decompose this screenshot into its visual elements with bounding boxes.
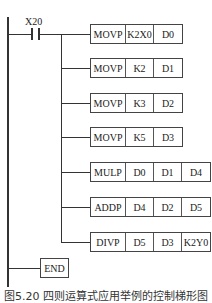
- branch-bus: [61, 34, 62, 243]
- operand: K2X0: [126, 25, 154, 43]
- opcode: MOVP: [91, 128, 126, 146]
- operand: D5: [182, 198, 210, 216]
- operand: K2: [126, 59, 154, 77]
- opcode: DIVP: [91, 233, 126, 251]
- operand: D5: [126, 233, 154, 251]
- operand: D1: [154, 59, 182, 77]
- branch-wire-4: [61, 172, 90, 173]
- operand: D2: [154, 94, 182, 112]
- opcode: ADDP: [91, 198, 126, 216]
- operand: D3: [154, 128, 182, 146]
- branch-wire-5: [61, 207, 90, 208]
- end-rung-wire: [8, 268, 40, 269]
- operand: D2: [154, 198, 182, 216]
- instruction-box-mulp: MULP D0 D1 D4: [90, 162, 211, 182]
- operand: D4: [182, 163, 210, 181]
- opcode: MOVP: [91, 59, 126, 77]
- instruction-box-movp-d0: MOVP K2X0 D0: [90, 24, 183, 44]
- branch-wire-6: [61, 242, 90, 243]
- contact-label: X20: [25, 16, 42, 27]
- operand: D4: [126, 198, 154, 216]
- operand: D1: [154, 163, 182, 181]
- instruction-box-movp-d1: MOVP K2 D1: [90, 58, 183, 78]
- instruction-box-movp-d3: MOVP K5 D3: [90, 127, 183, 147]
- operand: K3: [126, 94, 154, 112]
- branch-wire-3: [61, 137, 90, 138]
- figure-caption: 图5.20 四则运算式应用举例的控制梯形图: [4, 287, 208, 303]
- branch-wire-2: [61, 103, 90, 104]
- opcode: MULP: [91, 163, 126, 181]
- operand: K5: [126, 128, 154, 146]
- instruction-box-addp: ADDP D4 D2 D5: [90, 197, 211, 217]
- left-power-rail: [7, 17, 9, 287]
- rung-wire: [8, 34, 31, 35]
- contact-no-left-bar: [31, 28, 33, 40]
- branch-wire-1: [61, 68, 90, 69]
- branch-wire-0: [61, 34, 90, 35]
- operand: K2Y0: [182, 233, 210, 251]
- operand: D0: [154, 25, 182, 43]
- end-instruction: END: [40, 258, 69, 278]
- opcode: MOVP: [91, 25, 126, 43]
- operand: D0: [126, 163, 154, 181]
- operand: D3: [154, 233, 182, 251]
- instruction-box-movp-d2: MOVP K3 D2: [90, 93, 183, 113]
- rung-wire: [39, 34, 61, 35]
- opcode: MOVP: [91, 94, 126, 112]
- instruction-box-divp: DIVP D5 D3 K2Y0: [90, 232, 211, 252]
